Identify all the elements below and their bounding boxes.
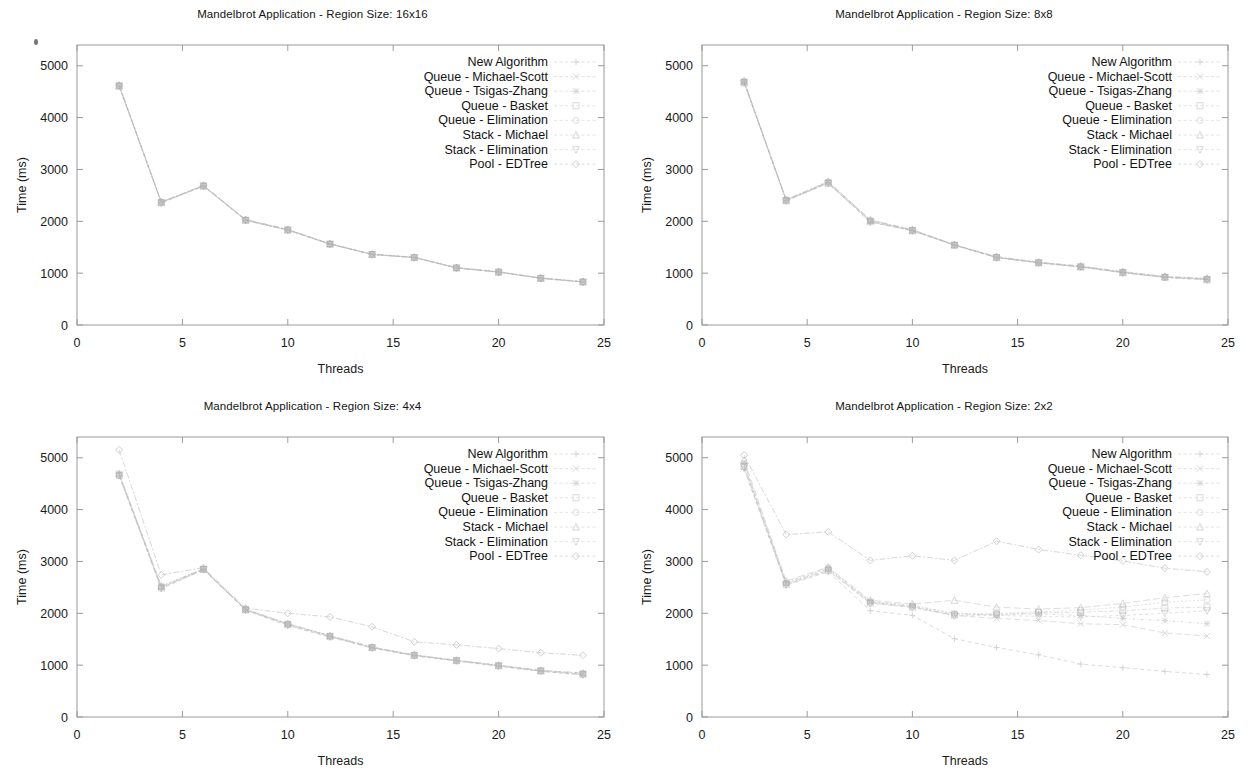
y-tick-label: 3000 <box>40 163 68 177</box>
legend: New AlgorithmQueue - Michael-ScottQueue … <box>424 447 598 563</box>
y-tick-label: 5000 <box>665 59 693 73</box>
legend-label: New Algorithm <box>467 55 548 69</box>
plot-area: 0100020003000400050000510152025ThreadsTi… <box>0 392 625 784</box>
x-tick-label: 25 <box>597 728 611 742</box>
x-axis-label: Threads <box>318 362 364 376</box>
x-axis-label: Threads <box>318 754 364 768</box>
plot-svg-2x2: 0100020003000400050000510152025ThreadsTi… <box>625 392 1249 784</box>
x-tick-label: 10 <box>281 728 295 742</box>
y-tick-label: 2000 <box>40 607 68 621</box>
legend-label: Queue - Michael-Scott <box>424 70 549 84</box>
y-tick-label: 1000 <box>665 267 693 281</box>
x-axis-label: Threads <box>942 754 988 768</box>
data-point <box>1162 618 1168 624</box>
legend-key <box>554 103 598 109</box>
x-tick-label: 5 <box>179 728 186 742</box>
legend-label: Queue - Michael-Scott <box>424 462 549 476</box>
y-tick-label: 1000 <box>665 659 693 673</box>
x-tick-label: 20 <box>1116 336 1130 350</box>
y-tick-label: 1000 <box>40 659 68 673</box>
legend-key <box>554 553 598 560</box>
data-point <box>1204 671 1210 677</box>
legend-label: Queue - Elimination <box>438 505 548 519</box>
chart-grid: Mandelbrot Application - Region Size: 16… <box>0 0 1249 784</box>
legend-label: Stack - Michael <box>1087 128 1172 142</box>
legend-key-marker <box>1197 451 1203 457</box>
legend-label: New Algorithm <box>1091 55 1172 69</box>
legend-label: Pool - EDTree <box>469 549 548 563</box>
x-tick-label: 5 <box>804 336 811 350</box>
plot-area: 0100020003000400050000510152025ThreadsTi… <box>625 392 1249 784</box>
legend-key <box>554 117 598 123</box>
legend-label: Pool - EDTree <box>469 157 548 171</box>
x-tick-label: 5 <box>179 336 186 350</box>
plot-area: 0100020003000400050000510152025ThreadsTi… <box>625 0 1249 392</box>
x-tick-label: 10 <box>905 336 919 350</box>
legend-key-marker <box>573 480 579 486</box>
plot-area: 0100020003000400050000510152025ThreadsTi… <box>0 0 625 392</box>
legend-key <box>554 539 598 546</box>
x-tick-label: 0 <box>699 728 706 742</box>
legend-key <box>1178 59 1222 65</box>
x-tick-label: 15 <box>386 728 400 742</box>
legend-key <box>554 451 598 457</box>
legend-key <box>1178 147 1222 154</box>
legend-key <box>1178 117 1222 123</box>
y-tick-label: 2000 <box>665 607 693 621</box>
y-tick-label: 5000 <box>40 451 68 465</box>
legend-key <box>554 523 598 530</box>
legend-key-marker <box>573 59 579 65</box>
legend-key-marker <box>1197 59 1203 65</box>
legend-key <box>554 59 598 65</box>
y-axis-label: Time (ms) <box>15 549 29 605</box>
legend-key <box>554 161 598 168</box>
legend-label: Pool - EDTree <box>1093 549 1172 563</box>
x-tick-label: 0 <box>699 336 706 350</box>
legend-label: Queue - Tsigas-Zhang <box>1049 84 1172 98</box>
legend-label: Stack - Michael <box>463 128 548 142</box>
legend: New AlgorithmQueue - Michael-ScottQueue … <box>424 55 598 171</box>
legend-label: Queue - Tsigas-Zhang <box>425 84 548 98</box>
legend-key <box>1178 539 1222 546</box>
y-tick-label: 2000 <box>665 215 693 229</box>
y-tick-label: 5000 <box>665 451 693 465</box>
legend-label: Stack - Michael <box>463 520 548 534</box>
legend-key <box>554 509 598 515</box>
legend-key <box>554 480 598 486</box>
y-axis-label: Time (ms) <box>640 549 654 605</box>
legend-key <box>1178 495 1222 501</box>
x-tick-label: 20 <box>492 728 506 742</box>
data-point <box>909 612 915 618</box>
legend-key <box>554 88 598 94</box>
x-tick-label: 5 <box>804 728 811 742</box>
legend-label: Queue - Elimination <box>1062 113 1172 127</box>
y-tick-label: 3000 <box>665 555 693 569</box>
y-tick-label: 5000 <box>40 59 68 73</box>
legend-key <box>554 466 598 472</box>
legend-key <box>554 131 598 138</box>
plot-svg-16x16: 0100020003000400050000510152025ThreadsTi… <box>0 0 625 392</box>
y-tick-label: 4000 <box>40 111 68 125</box>
legend-key-marker <box>1197 480 1203 486</box>
legend-key <box>1178 74 1222 80</box>
legend-label: New Algorithm <box>467 447 548 461</box>
legend-key <box>1178 103 1222 109</box>
legend-label: Queue - Basket <box>1085 99 1172 113</box>
x-tick-label: 10 <box>281 336 295 350</box>
legend-label: Pool - EDTree <box>1093 157 1172 171</box>
data-point <box>1162 668 1168 674</box>
y-tick-label: 0 <box>61 319 68 333</box>
legend-key <box>1178 466 1222 472</box>
data-point <box>951 636 957 642</box>
legend-key-marker <box>573 451 579 457</box>
data-point <box>1120 665 1126 671</box>
legend-label: Queue - Michael-Scott <box>1048 462 1173 476</box>
legend-key <box>1178 523 1222 530</box>
data-point <box>1078 661 1084 667</box>
y-axis-label: Time (ms) <box>15 157 29 213</box>
legend-label: Queue - Basket <box>1085 491 1172 505</box>
y-tick-label: 3000 <box>665 163 693 177</box>
y-tick-label: 0 <box>686 711 693 725</box>
legend-label: Queue - Tsigas-Zhang <box>425 476 548 490</box>
y-tick-label: 0 <box>61 711 68 725</box>
